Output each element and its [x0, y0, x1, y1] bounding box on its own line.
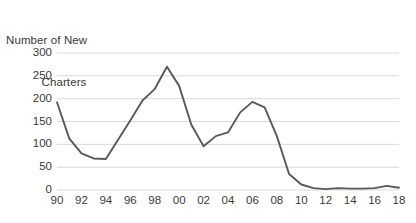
- x-axis-tick-label: 08: [265, 194, 289, 207]
- x-axis-tick-label: 92: [69, 194, 93, 207]
- x-axis-tick-label: 04: [216, 194, 240, 207]
- x-axis-tick-label: 02: [192, 194, 216, 207]
- series-new-charters: [57, 67, 399, 189]
- x-axis-tick-label: 98: [143, 194, 167, 207]
- chart-title-line-1: Number of New: [4, 33, 124, 47]
- y-axis-tick-label: 50: [8, 161, 52, 172]
- line-chart: Number of New Charters 05010015020025030…: [0, 0, 416, 223]
- x-axis-tick-label: 10: [289, 194, 313, 207]
- x-axis-tick-label: 12: [314, 194, 338, 207]
- x-axis-tick-label: 94: [94, 194, 118, 207]
- x-axis-tick-label: 90: [45, 194, 69, 207]
- x-axis-tick-label: 06: [240, 194, 264, 207]
- x-axis-tick-label: 96: [118, 194, 142, 207]
- x-axis-tick-label: 00: [167, 194, 191, 207]
- y-axis-tick-labels: 050100150200250300: [8, 53, 52, 190]
- y-axis-tick-label: 150: [8, 116, 52, 127]
- plot-area: [57, 53, 399, 190]
- x-axis-tick-label: 18: [387, 194, 411, 207]
- y-axis-tick-label: 100: [8, 138, 52, 149]
- x-axis-tick-labels: 909294969800020406081012141618: [57, 194, 399, 214]
- y-axis-tick-label: 200: [8, 93, 52, 104]
- x-axis-tick-label: 16: [363, 194, 387, 207]
- y-axis-tick-label: 300: [8, 47, 52, 58]
- y-axis-tick-label: 250: [8, 70, 52, 81]
- x-axis-tick-label: 14: [338, 194, 362, 207]
- data-series-line: [57, 53, 399, 190]
